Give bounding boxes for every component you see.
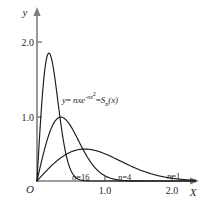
y-axis-label: y <box>22 6 28 18</box>
x-tick-label-1: 1.0 <box>99 185 112 196</box>
y-tick-label-2: 2.0 <box>22 37 35 48</box>
function-plot-figure: y X O 2.0 1.0 1.0 2.0 n=16 n=4 n=1 y= nx… <box>0 0 206 208</box>
formula-annotation: y= nxe-nx2=Sn(x) <box>62 94 118 105</box>
curve-label-n16: n=16 <box>72 172 90 182</box>
curve-label-n4: n=4 <box>118 172 132 182</box>
curve-label-n16-value: =16 <box>76 172 89 182</box>
formula-coefficient: nxe <box>73 95 85 105</box>
y-axis-arrow-icon <box>33 7 40 16</box>
formula-exponent: -nx2 <box>85 93 96 100</box>
formula-argument: (x) <box>108 95 118 105</box>
x-tick-label-2: 2.0 <box>166 185 179 196</box>
origin-label: O <box>26 183 34 195</box>
formula-equals-1: = <box>66 95 71 105</box>
x-axis-label: X <box>189 186 198 198</box>
curve-label-n1: n=1 <box>167 171 180 181</box>
y-tick-label-1: 1.0 <box>22 112 35 123</box>
curve-label-n4-value: =4 <box>122 172 132 182</box>
curve-label-n1-value: =1 <box>171 171 180 181</box>
